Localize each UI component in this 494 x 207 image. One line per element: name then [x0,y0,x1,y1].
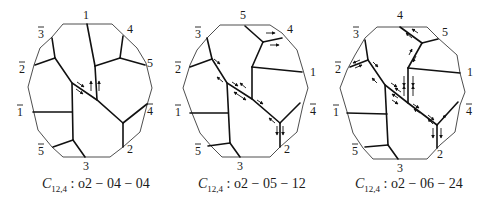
graph-edge [35,58,55,65]
vertex-label-barred: 1 [17,105,23,119]
graph-edge [365,40,368,60]
vertex-label-barred: 2 [335,62,341,76]
graph-edge [120,36,123,58]
diagram-panel-2: 5413214523 [175,8,316,173]
caption-subscript: 12,4 [364,184,380,194]
vertex-label-barred: 1 [333,105,339,119]
vertex-label-barred: 4 [310,104,316,118]
caption-symbol: C [355,176,364,191]
vertex-label: 3 [237,159,243,173]
vertex-label-barred: 2 [19,62,25,76]
graph-edge [73,140,85,157]
arrow-icon [392,100,398,104]
graph-edge [263,38,282,42]
vertex-label: 1 [310,65,316,79]
graph-edge [365,145,388,147]
caption-panel-1: C12,4 : o2 − 04 − 04 [42,176,150,194]
graph-edge [252,42,263,67]
caption-code: : o2 − 05 − 12 [223,176,306,191]
graph-edge [245,26,263,42]
vertex-label: 3 [397,161,403,175]
vertex-label-barred: 2 [175,62,181,76]
graph-edge [120,58,145,65]
arrow-icon [240,83,246,88]
vertex-label-barred: 4 [147,104,153,118]
arrow-icon [391,83,397,87]
caption-symbol: C [198,176,207,191]
caption-panel-3: C12,4 : o2 − 06 − 24 [355,176,463,194]
graph-edge [55,58,123,123]
vertex-label: 5 [240,8,246,22]
figure: 1453214523 5413214523 4513214523 C12,4 :… [0,0,494,207]
vertex-label: 1 [467,65,473,79]
graph-edge [207,38,212,59]
arrow-icon [232,82,238,86]
arrow-icon [240,96,246,100]
vertex-label: 4 [287,22,293,36]
vertex-label-barred: 3 [195,27,201,41]
arrow-icon [217,77,223,82]
caption-code: : o2 − 04 − 04 [67,176,150,191]
vertex-label: 2 [127,142,133,156]
graph-edge [385,85,388,145]
graph-edge [230,143,240,157]
vertex-label-barred: 4 [466,104,472,118]
arrow-icon [373,62,378,67]
diagram-panel-1: 1453214523 [17,8,153,173]
caption-subscript: 12,4 [51,184,67,194]
graph-edge [280,103,300,123]
vertex-label: 1 [83,8,89,22]
vertex-label: 5 [442,25,448,39]
arrow-icon [372,78,377,83]
arrow-icon [412,29,418,33]
vertex-label: 4 [397,8,403,22]
vertex-label: 5 [147,56,153,70]
graph-edge [87,24,95,66]
graph-edge [252,67,302,72]
dodecagon-outline [340,27,465,159]
graph-edge [95,66,97,100]
graph-edge [190,59,212,67]
arrow-icon [395,88,401,92]
graph-edge [53,140,73,147]
graph-edge [408,68,460,73]
vertex-label: 2 [437,147,443,161]
diagram-panel-3: 4513214523 [333,8,473,175]
caption-code: : o2 − 06 − 24 [380,176,463,191]
vertex-label: 3 [83,159,89,173]
vertex-label-barred: 5 [352,144,358,158]
vertex-label-barred: 5 [38,144,44,158]
vertex-label-barred: 1 [175,105,181,119]
dodecagon-outline [183,25,308,157]
caption-symbol: C [42,176,51,191]
graph-edge [388,145,398,159]
arrow-icon [409,49,412,55]
graph-edge [95,58,120,66]
vertex-label-barred: 3 [38,27,44,41]
graph-edge [422,39,438,43]
graph-edge [208,143,230,146]
caption-subscript: 12,4 [207,184,223,194]
vertex-label: 2 [284,142,290,156]
vertex-label-barred: 3 [353,27,359,41]
graph-edge [52,38,55,58]
vertex-label: 4 [127,22,133,36]
graph-edge [400,27,422,43]
caption-panel-2: C12,4 : o2 − 05 − 12 [198,176,306,194]
graph-edge [437,102,458,125]
arrow-icon [353,60,360,63]
graph-edge [347,113,387,114]
graph-edge [408,43,422,68]
vertex-label-barred: 5 [195,144,201,158]
arrow-icon [234,92,240,96]
